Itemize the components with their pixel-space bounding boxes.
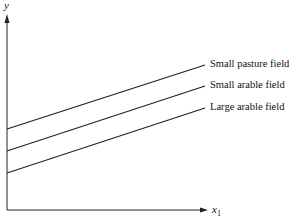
line-large-arable bbox=[7, 108, 205, 173]
label-large-arable: Large arable field bbox=[210, 101, 284, 112]
x-axis-label: x1 bbox=[212, 203, 221, 218]
line-small-arable bbox=[7, 86, 205, 151]
x-axis-arrow-icon bbox=[200, 208, 208, 213]
label-small-pasture: Small pasture field bbox=[210, 58, 289, 69]
y-axis-arrow-icon bbox=[5, 14, 10, 23]
label-small-arable: Small arable field bbox=[210, 79, 285, 90]
y-axis-label: y bbox=[4, 0, 9, 11]
line-small-pasture bbox=[7, 65, 205, 129]
